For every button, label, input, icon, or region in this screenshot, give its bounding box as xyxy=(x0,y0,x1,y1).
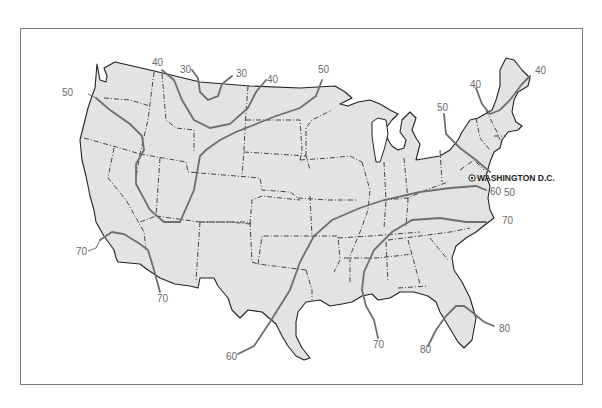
isotherm-label: 80 xyxy=(420,344,432,355)
isotherm-label: 80 xyxy=(499,323,511,334)
isotherm-label: 50 xyxy=(504,187,516,198)
isotherm-label: 70 xyxy=(76,246,88,257)
isotherm-label: 70 xyxy=(157,293,169,304)
isotherm-label: 70 xyxy=(373,339,385,350)
isotherm-label: 60 xyxy=(490,186,502,197)
isotherm-label: 50 xyxy=(318,64,330,75)
isotherm-label: 40 xyxy=(470,79,482,90)
isotherm-label: 60 xyxy=(226,351,238,362)
isotherm-label: 40 xyxy=(267,74,279,85)
isotherm-label: 50 xyxy=(437,102,449,113)
isotherm-label: 30 xyxy=(180,64,192,75)
us-isotherm-map: WASHINGTON D.C. 40 30 30 40 50 50 40 40 … xyxy=(0,0,602,408)
isotherm-label: 40 xyxy=(535,65,547,76)
isotherm-label: 70 xyxy=(502,215,514,226)
isotherm-label: 40 xyxy=(152,57,164,68)
isotherm-label: 50 xyxy=(62,87,74,98)
washington-dc-marker: WASHINGTON D.C. xyxy=(469,173,555,183)
city-label-washington-dc: WASHINGTON D.C. xyxy=(477,173,555,183)
isotherm-label: 30 xyxy=(236,68,248,79)
